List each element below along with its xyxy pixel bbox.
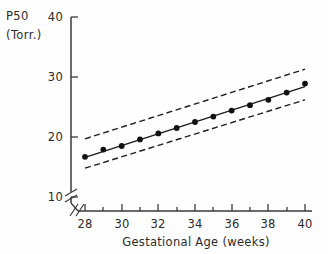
data-point — [137, 137, 143, 143]
data-point — [210, 114, 216, 120]
data-point — [247, 102, 253, 108]
data-point — [82, 154, 88, 160]
y-tick-label-20: 20 — [48, 130, 63, 144]
figure-container: P50 (Torr.) 40 30 20 10 — [0, 0, 328, 254]
x-tick-group — [85, 204, 305, 211]
x-tick-label-38: 38 — [260, 217, 275, 231]
axis-break-marks — [65, 189, 84, 216]
x-tick-label-34: 34 — [187, 217, 202, 231]
x-tick-label-32: 32 — [150, 217, 165, 231]
data-point — [192, 119, 198, 125]
x-tick-label-30: 30 — [114, 217, 129, 231]
data-point — [100, 147, 106, 153]
upper-confidence-band — [85, 69, 305, 139]
chart-svg: 40 30 20 10 28 30 32 34 36 38 40 Gestati… — [0, 0, 328, 254]
data-point — [174, 125, 180, 131]
y-tick-label-30: 30 — [48, 70, 63, 84]
data-point — [265, 97, 271, 103]
data-point — [229, 108, 235, 114]
data-point — [155, 131, 161, 137]
lower-confidence-band — [85, 100, 305, 168]
data-point — [302, 81, 308, 87]
x-axis-title: Gestational Age (weeks) — [122, 235, 269, 249]
data-point — [284, 90, 290, 96]
y-tick-label-40: 40 — [48, 10, 63, 24]
data-point — [119, 143, 125, 149]
x-tick-label-28: 28 — [77, 217, 92, 231]
x-tick-label-36: 36 — [224, 217, 239, 231]
axes-group — [65, 17, 312, 216]
plot-area — [82, 69, 308, 168]
y-tick-group — [71, 17, 78, 197]
y-tick-label-10: 10 — [48, 190, 63, 204]
x-tick-label-40: 40 — [297, 217, 312, 231]
